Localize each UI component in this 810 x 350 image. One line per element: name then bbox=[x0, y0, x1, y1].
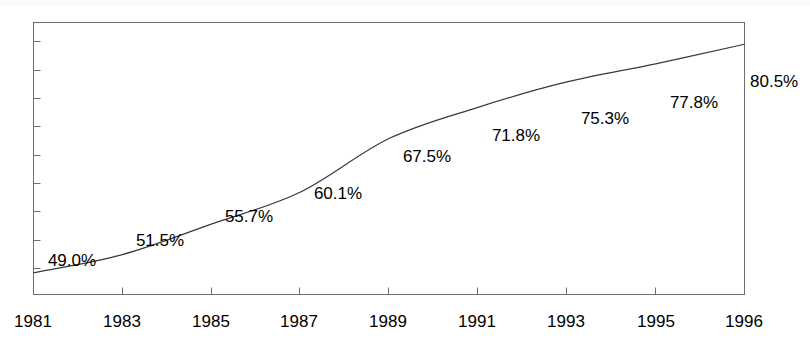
top-edge-artifact bbox=[0, 0, 810, 6]
x-tick-labels: 1981 1983 1985 1987 1989 1991 1993 1995 … bbox=[14, 312, 763, 331]
plot-frame bbox=[34, 23, 745, 295]
data-label-1996: 80.5% bbox=[750, 72, 798, 91]
x-tick-label-1983: 1983 bbox=[103, 312, 141, 331]
data-label-1989: 67.5% bbox=[403, 147, 451, 166]
data-label-1981: 49.0% bbox=[48, 251, 96, 270]
y-axis-ticks bbox=[34, 42, 41, 269]
x-tick-label-1993: 1993 bbox=[547, 312, 585, 331]
x-tick-label-1985: 1985 bbox=[192, 312, 230, 331]
x-tick-label-1987: 1987 bbox=[280, 312, 318, 331]
x-tick-label-1995: 1995 bbox=[637, 312, 675, 331]
data-label-1987: 60.1% bbox=[314, 184, 362, 203]
data-label-1995: 77.8% bbox=[670, 93, 718, 112]
x-axis-ticks bbox=[123, 288, 656, 295]
x-tick-label-1989: 1989 bbox=[369, 312, 407, 331]
line-chart: 1981 1983 1985 1987 1989 1991 1993 1995 … bbox=[0, 0, 810, 350]
data-point-labels: 49.0% 51.5% 55.7% 60.1% 67.5% 71.8% 75.3… bbox=[48, 72, 798, 270]
data-label-1991: 71.8% bbox=[492, 126, 540, 145]
data-label-1983: 51.5% bbox=[136, 231, 184, 250]
data-label-1993: 75.3% bbox=[581, 109, 629, 128]
x-tick-label-1981: 1981 bbox=[14, 312, 52, 331]
x-tick-label-1996: 1996 bbox=[725, 312, 763, 331]
x-tick-label-1991: 1991 bbox=[458, 312, 496, 331]
chart-canvas: 1981 1983 1985 1987 1989 1991 1993 1995 … bbox=[0, 0, 810, 350]
data-label-1985: 55.7% bbox=[225, 207, 273, 226]
